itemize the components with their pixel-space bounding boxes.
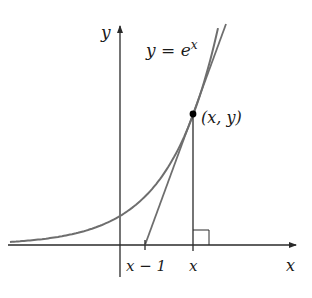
point-label: (x, y): [201, 108, 242, 127]
y-axis-label: y: [100, 22, 111, 42]
diagram-canvas: y y = ex (x, y) x − 1 x x: [0, 0, 312, 298]
curve-label: y = ex: [145, 38, 198, 60]
tick-label-x: x: [189, 257, 198, 275]
right-angle-marker: [193, 230, 209, 245]
exp-curve: [10, 28, 218, 242]
x-axis-label: x: [286, 256, 295, 275]
tick-label-x-minus-one: x − 1: [126, 257, 166, 275]
point-of-tangency: [190, 111, 197, 118]
